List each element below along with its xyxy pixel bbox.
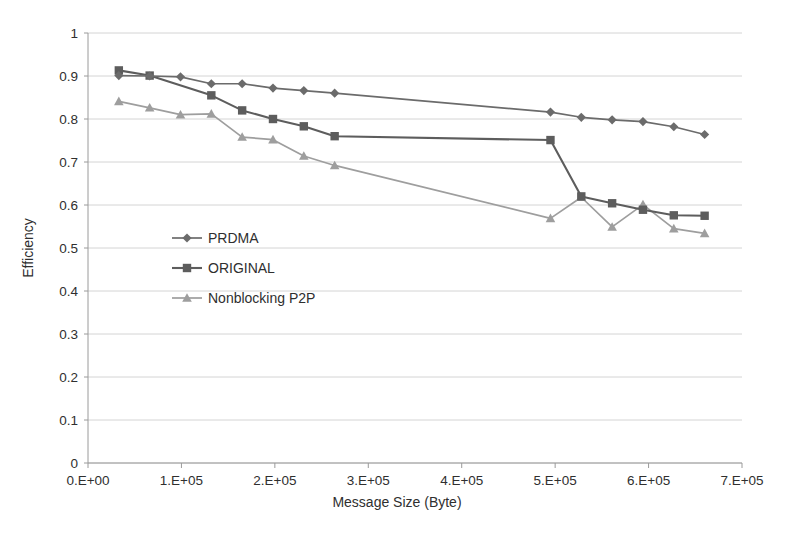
legend-label: PRDMA bbox=[208, 230, 259, 246]
data-point-diamond-marker bbox=[700, 130, 709, 139]
x-tick-label: 4.E+05 bbox=[440, 473, 483, 488]
data-point-triangle-marker bbox=[114, 97, 124, 106]
data-point-triangle-marker bbox=[299, 151, 309, 160]
legend-label: ORIGINAL bbox=[208, 260, 275, 276]
y-tick-label: 0.8 bbox=[59, 112, 78, 127]
data-point-square-marker bbox=[546, 136, 554, 144]
data-point-diamond-marker bbox=[608, 115, 617, 124]
y-axis-tick-labels: 00.10.20.30.40.50.60.70.80.91 bbox=[59, 26, 78, 471]
x-axis-title: Message Size (Byte) bbox=[332, 494, 461, 510]
x-tick-label: 7.E+05 bbox=[720, 473, 763, 488]
data-point-diamond-marker bbox=[546, 108, 555, 117]
data-point-diamond-marker bbox=[182, 233, 191, 242]
efficiency-line-chart: 00.10.20.30.40.50.60.70.80.91 0.E+001.E+… bbox=[0, 0, 806, 539]
chart-legend: PRDMAORIGINALNonblocking P2P bbox=[172, 230, 315, 306]
data-point-diamond-marker bbox=[268, 83, 277, 92]
data-point-square-marker bbox=[608, 199, 616, 207]
data-point-diamond-marker bbox=[207, 79, 216, 88]
y-tick-label: 1 bbox=[70, 26, 78, 41]
x-tick-label: 6.E+05 bbox=[627, 473, 670, 488]
y-tick-label: 0.5 bbox=[59, 241, 78, 256]
x-tick-label: 2.E+05 bbox=[253, 473, 296, 488]
data-point-diamond-marker bbox=[669, 122, 678, 131]
legend-item-prdma[interactable]: PRDMA bbox=[172, 230, 259, 246]
series-nonblocking-p2p bbox=[114, 97, 709, 238]
y-tick-label: 0.7 bbox=[59, 155, 78, 170]
data-point-square-marker bbox=[300, 122, 308, 130]
data-point-square-marker bbox=[577, 192, 585, 200]
legend-item-original[interactable]: ORIGINAL bbox=[172, 260, 275, 276]
chart-canvas: 00.10.20.30.40.50.60.70.80.91 0.E+001.E+… bbox=[0, 0, 806, 539]
x-tick-label: 5.E+05 bbox=[534, 473, 577, 488]
data-point-diamond-marker bbox=[299, 86, 308, 95]
y-tick-label: 0.3 bbox=[59, 327, 78, 342]
y-tick-label: 0.6 bbox=[59, 198, 78, 213]
x-tick-label: 3.E+05 bbox=[347, 473, 390, 488]
series-prdma bbox=[114, 71, 709, 139]
data-point-square-marker bbox=[269, 115, 277, 123]
x-tick-label: 1.E+05 bbox=[160, 473, 203, 488]
legend-item-nonblocking-p2p[interactable]: Nonblocking P2P bbox=[172, 290, 315, 306]
data-point-square-marker bbox=[238, 106, 246, 114]
series-original bbox=[115, 66, 709, 220]
y-tick-label: 0 bbox=[70, 456, 78, 471]
gridlines bbox=[88, 33, 742, 463]
series-line bbox=[119, 70, 705, 215]
data-point-square-marker bbox=[330, 132, 338, 140]
data-point-diamond-marker bbox=[238, 79, 247, 88]
series-line bbox=[119, 76, 705, 135]
data-point-diamond-marker bbox=[330, 89, 339, 98]
data-point-diamond-marker bbox=[638, 117, 647, 126]
y-tick-label: 0.1 bbox=[59, 413, 78, 428]
data-point-square-marker bbox=[639, 206, 647, 214]
data-point-square-marker bbox=[207, 91, 215, 99]
x-axis-tick-labels: 0.E+001.E+052.E+053.E+054.E+055.E+056.E+… bbox=[66, 473, 763, 488]
y-tick-label: 0.4 bbox=[59, 284, 78, 299]
y-tick-label: 0.2 bbox=[59, 370, 78, 385]
data-series-layer bbox=[114, 66, 709, 237]
x-tick-label: 0.E+00 bbox=[66, 473, 109, 488]
series-line bbox=[119, 101, 705, 233]
data-point-diamond-marker bbox=[176, 72, 185, 81]
axis-tickmarks bbox=[84, 33, 742, 468]
data-point-diamond-marker bbox=[577, 113, 586, 122]
y-tick-label: 0.9 bbox=[59, 69, 78, 84]
data-point-square-marker bbox=[670, 211, 678, 219]
legend-label: Nonblocking P2P bbox=[208, 290, 315, 306]
data-point-square-marker bbox=[700, 212, 708, 220]
y-axis-title: Efficiency bbox=[20, 218, 36, 278]
data-point-square-marker bbox=[183, 264, 191, 272]
